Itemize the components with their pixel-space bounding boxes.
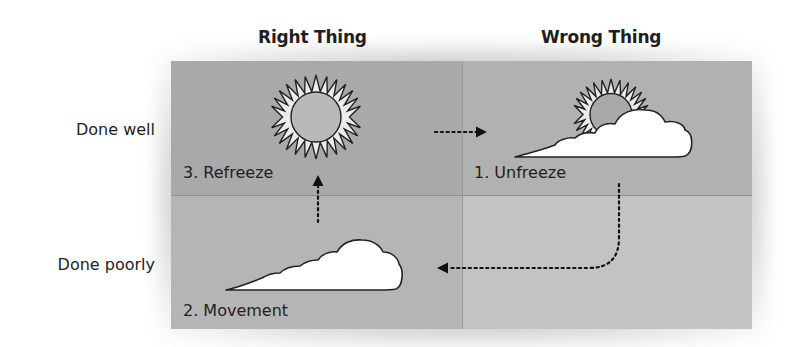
cell-label-refreeze: 3. Refreeze bbox=[183, 163, 273, 182]
column-header-wrong-thing: Wrong Thing bbox=[541, 27, 661, 47]
row-header-done-poorly: Done poorly bbox=[5, 255, 155, 274]
column-header-right-thing: Right Thing bbox=[258, 27, 367, 47]
cell-right-thing-done-well: 3. Refreeze bbox=[171, 61, 462, 195]
cell-label-unfreeze: 1. Unfreeze bbox=[474, 163, 566, 182]
cell-wrong-thing-done-poorly bbox=[462, 195, 752, 329]
vertical-divider bbox=[462, 61, 463, 329]
cell-label-movement: 2. Movement bbox=[183, 301, 288, 320]
cell-right-thing-done-poorly: 2. Movement bbox=[171, 195, 462, 329]
quadrant-grid: 3. Refreeze 1. Unfreeze 2. Movement bbox=[171, 61, 752, 329]
cell-wrong-thing-done-well: 1. Unfreeze bbox=[462, 61, 752, 195]
row-header-done-well: Done well bbox=[5, 120, 155, 139]
